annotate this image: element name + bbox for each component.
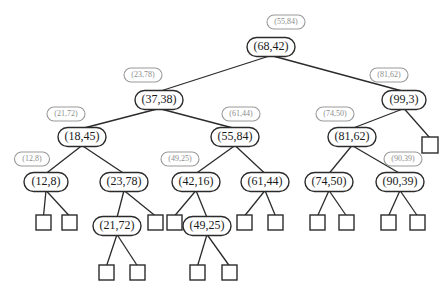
- leaf-square: [99, 265, 114, 280]
- leaf-square: [237, 215, 252, 230]
- leaf-square: [410, 215, 425, 230]
- ghost-node-text: (21,72): [54, 109, 78, 118]
- tree-node: (37,38): [135, 91, 183, 110]
- tree-node: (90,39): [376, 173, 424, 192]
- tree-edge: [198, 235, 208, 267]
- ghost-node-label: (81,62): [370, 68, 408, 82]
- tree-edge: [245, 191, 266, 217]
- tree-edge: [46, 146, 82, 174]
- tree-node-text: (49,25): [190, 218, 225, 232]
- tree-edge: [107, 235, 118, 267]
- tree-edge: [117, 191, 124, 218]
- tree-node-text: (21,72): [100, 218, 135, 232]
- tree-edge: [265, 191, 276, 217]
- leaf-square: [268, 215, 283, 230]
- ghost-node-label: (74,50): [316, 107, 354, 121]
- ghost-node-text: (61,44): [229, 109, 253, 118]
- tree-node: (21,72): [93, 217, 141, 236]
- ghost-node-text: (90,39): [391, 154, 415, 163]
- tree-node: (55,84): [211, 128, 259, 147]
- ghost-node-label: (21,72): [47, 107, 85, 121]
- tree-node: (81,62): [328, 128, 376, 147]
- tree-edge: [329, 146, 352, 174]
- tree-edge: [352, 109, 404, 129]
- leaf-square: [36, 215, 51, 230]
- tree-edge: [117, 235, 138, 267]
- tree-edge: [318, 191, 330, 217]
- ghost-node-text: (49,25): [168, 154, 192, 163]
- tree-node-text: (55,84): [218, 129, 253, 143]
- tree-node: (61,44): [241, 173, 289, 192]
- tree-edge: [175, 191, 197, 217]
- tree-edge: [82, 146, 124, 174]
- ghost-node-text: (55,84): [274, 17, 298, 26]
- ghost-node-label: (23,78): [124, 68, 162, 82]
- ghost-node-text: (12,8): [22, 154, 42, 163]
- leaf-square: [148, 215, 163, 230]
- tree-edge: [235, 146, 265, 174]
- leaf-square: [381, 215, 396, 230]
- tree-node: (99,3): [382, 91, 426, 110]
- tree-diagram: (55,84)(23,78)(81,62)(21,72)(61,44)(74,5…: [0, 0, 445, 297]
- leaf-square: [167, 215, 182, 230]
- leaf-square: [62, 215, 77, 230]
- leaf-square: [310, 215, 325, 230]
- tree-node: (49,25): [183, 217, 231, 236]
- tree-edge: [46, 191, 70, 217]
- leaf-square: [422, 137, 438, 153]
- leaf-square: [130, 265, 145, 280]
- tree-edge: [329, 191, 347, 217]
- tree-edge: [389, 191, 401, 217]
- tree-node: (68,42): [247, 38, 295, 57]
- tree-node: (23,78): [100, 173, 148, 192]
- tree-node-text: (61,44): [248, 174, 283, 188]
- ghost-node-text: (23,78): [131, 70, 155, 79]
- tree-edge: [82, 109, 159, 129]
- tree-node-text: (42,16): [179, 174, 214, 188]
- tree-edge: [196, 191, 207, 218]
- ghost-node-label: (61,44): [222, 107, 260, 121]
- leaf-square: [190, 265, 205, 280]
- tree-edge: [159, 56, 271, 92]
- ghost-node-text: (81,62): [377, 70, 401, 79]
- tree-edge: [400, 191, 418, 217]
- tree-node: (18,45): [58, 128, 106, 147]
- tree-node: (12,8): [24, 173, 68, 192]
- node-layer: (68,42)(37,38)(99,3)(18,45)(55,84)(81,62…: [24, 38, 426, 236]
- tree-node: (74,50): [305, 173, 353, 192]
- tree-edge: [404, 109, 430, 139]
- tree-edge: [124, 191, 156, 217]
- tree-node: (42,16): [172, 173, 220, 192]
- tree-edge: [44, 191, 47, 217]
- tree-node-text: (99,3): [390, 92, 419, 106]
- tree-edge: [196, 146, 235, 174]
- tree-node-text: (81,62): [335, 129, 370, 143]
- tree-node-text: (23,78): [107, 174, 142, 188]
- tree-node-text: (90,39): [383, 174, 418, 188]
- tree-edge: [207, 235, 230, 267]
- ghost-node-label: (90,39): [384, 152, 422, 166]
- ghost-node-label: (55,84): [267, 15, 305, 29]
- tree-node-text: (12,8): [32, 174, 61, 188]
- tree-node-text: (68,42): [254, 39, 289, 53]
- ghost-node-label: (12,8): [15, 152, 50, 166]
- leaf-square: [339, 215, 354, 230]
- tree-node-text: (37,38): [142, 92, 177, 106]
- ghost-node-label: (49,25): [161, 152, 199, 166]
- tree-node-text: (74,50): [312, 174, 347, 188]
- leaf-layer: [36, 137, 438, 280]
- tree-node-text: (18,45): [65, 129, 100, 143]
- ghost-node-text: (74,50): [323, 109, 347, 118]
- leaf-square: [222, 265, 237, 280]
